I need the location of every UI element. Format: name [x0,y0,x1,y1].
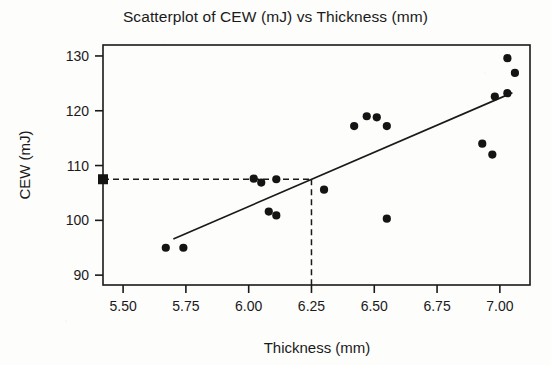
data-point [257,178,265,186]
prediction-square-marker [98,174,108,184]
data-point [162,244,170,252]
data-point [320,186,328,194]
data-point [272,211,280,219]
x-tick-label: 6.00 [235,298,262,314]
x-tick-label: 5.50 [109,298,136,314]
data-point [272,175,280,183]
data-point [491,92,499,100]
data-point [503,89,511,97]
data-point [511,69,519,77]
data-point [383,122,391,130]
y-tick-label: 90 [73,267,89,283]
data-point [488,150,496,158]
y-tick-label: 130 [66,48,90,64]
data-point [363,112,371,120]
x-tick-label: 6.25 [298,298,325,314]
y-tick-label: 120 [66,103,90,119]
x-axis-title: Thickness (mm) [264,339,371,356]
data-point [373,113,381,121]
y-axis-title: CEW (mJ) [16,130,33,199]
x-tick-label: 5.75 [172,298,199,314]
fit-line-segment [173,93,512,239]
plot-canvas: 90100110120130 5.505.756.006.256.506.757… [0,0,551,365]
data-point [250,175,258,183]
scatter-points [162,54,519,252]
y-axis-ticks: 90100110120130 [66,48,103,283]
data-point [265,207,273,215]
data-point [350,122,358,130]
x-axis-ticks: 5.505.756.006.256.506.757.00 [109,285,513,314]
data-point [383,215,391,223]
x-tick-label: 7.00 [486,298,513,314]
data-point [503,54,511,62]
regression-line [173,93,512,239]
data-point [179,244,187,252]
x-tick-label: 6.75 [423,298,450,314]
y-tick-label: 100 [66,212,90,228]
scatterplot-figure: Scatterplot of CEW (mJ) vs Thickness (mm… [0,0,551,365]
y-tick-label: 110 [67,158,90,174]
data-point [478,140,486,148]
prediction-guides [98,174,311,285]
x-tick-label: 6.50 [361,298,388,314]
